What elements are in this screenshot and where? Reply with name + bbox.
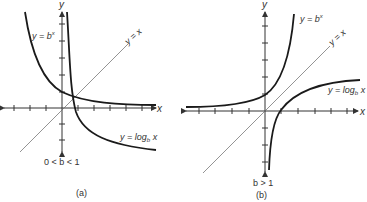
- caption-a: (a): [76, 188, 87, 198]
- y-axis-label-a: y: [58, 0, 65, 10]
- condition-label-a: 0 < b < 1: [44, 157, 80, 167]
- diagram-canvas: y x y = bx y = x y = logb x 0 < b < 1 (a…: [0, 0, 367, 202]
- log-label-b: y = logb x: [327, 85, 366, 96]
- x-axis-label-a: x: [156, 103, 163, 114]
- exp-label-b: y = bx: [299, 13, 324, 24]
- x-axis-label-b: x: [359, 106, 366, 117]
- log-label-a: y = logb x: [119, 132, 158, 143]
- identity-label-b: y = x: [326, 27, 348, 48]
- caption-b: (b): [256, 190, 267, 200]
- panel-b: y x y = bx y = x y = logb x b > 1 (b): [186, 0, 366, 200]
- exp-curve-b: [186, 14, 294, 107]
- identity-label-a: y = x: [122, 26, 144, 47]
- exp-label-a: y = bx: [31, 30, 56, 41]
- condition-label-b: b > 1: [253, 178, 273, 188]
- y-axis-label-b: y: [261, 0, 268, 10]
- identity-line-b: [203, 46, 330, 173]
- panel-a: y x y = bx y = x y = logb x 0 < b < 1 (a…: [4, 0, 163, 198]
